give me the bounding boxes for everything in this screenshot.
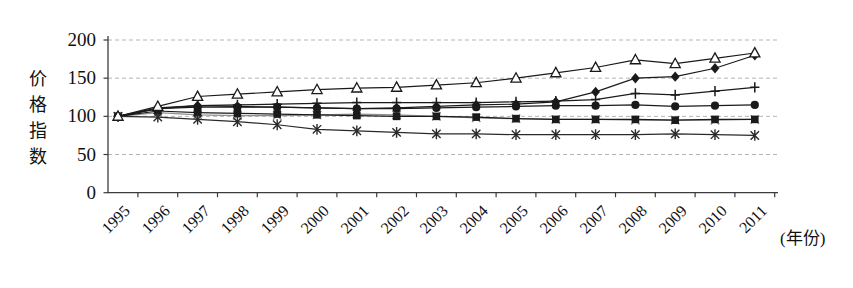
y-tick-label-100: 100: [52, 106, 96, 126]
chart-canvas: [0, 0, 853, 288]
x-axis-unit-label: (年份): [780, 224, 825, 249]
y-tick-label-50: 50: [52, 145, 96, 165]
y-tick-label-200: 200: [52, 30, 96, 50]
y-axis-title: 价格指数: [27, 66, 49, 170]
y-tick-label-0: 0: [52, 183, 96, 203]
axis-lines: [108, 36, 778, 193]
price-index-line-chart-figure: 价格指数 050100150200 1995199619971998199920…: [0, 0, 853, 288]
y-tick-label-150: 150: [52, 68, 96, 88]
